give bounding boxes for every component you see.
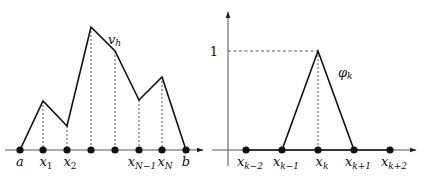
- node-label: xk+1: [345, 154, 371, 171]
- function-label-phik: φk: [338, 65, 353, 81]
- function-label-vh: vh: [108, 32, 121, 48]
- node-dot: [182, 146, 189, 153]
- node-dot: [16, 146, 23, 153]
- node-label: b: [182, 154, 190, 169]
- diagram-canvas: ax1x2xN−1xNb vh 1 xk−2xk−1xkxk+1xk+2 φk: [0, 0, 424, 180]
- node-labels: xk−2xk−1xkxk+1xk+2: [237, 154, 407, 171]
- y-tick-one: 1: [210, 44, 218, 59]
- node-labels: ax1x2xN−1xNb: [16, 154, 190, 171]
- node-dot: [111, 146, 118, 153]
- node-dot: [386, 146, 393, 153]
- node-dot: [350, 146, 357, 153]
- node-dot: [278, 146, 285, 153]
- node-dot: [158, 146, 165, 153]
- node-dot: [39, 146, 46, 153]
- hat-basis-function-plot: 1 xk−2xk−1xkxk+1xk+2 φk: [210, 12, 416, 171]
- node-label: a: [16, 154, 24, 169]
- node-dot: [314, 146, 321, 153]
- node-dot: [63, 146, 70, 153]
- node-label: xk+2: [381, 154, 407, 171]
- node-label: xk−1: [273, 154, 299, 171]
- node-dot: [242, 146, 249, 153]
- node-label: x2: [63, 154, 76, 171]
- piecewise-linear-function-plot: ax1x2xN−1xNb vh: [5, 27, 203, 171]
- node-dot: [135, 146, 142, 153]
- node-label: xk−2: [237, 154, 263, 171]
- node-label: xk: [316, 154, 329, 171]
- vertical-dotted-guides: [43, 27, 162, 150]
- function-vh-curve: [20, 27, 186, 150]
- node-label: x1: [39, 154, 52, 171]
- node-dot: [87, 146, 94, 153]
- node-label: xN: [157, 154, 173, 171]
- node-label: xN−1: [128, 154, 157, 171]
